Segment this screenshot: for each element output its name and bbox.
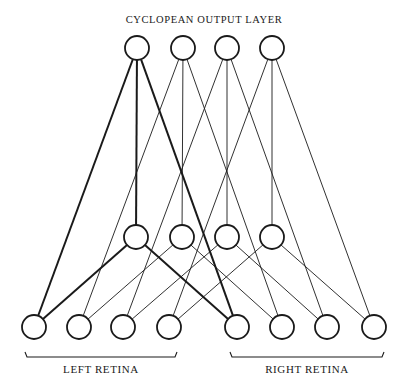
left-retina-node-2 [67, 315, 91, 339]
right-retina-node-1 [225, 315, 249, 339]
left-retina-node-4 [157, 315, 181, 339]
edge-cyclopean-output-2-to-right-retina-2 [187, 59, 278, 315]
edge-hidden-1-to-right-retina-1 [145, 245, 228, 319]
edge-hidden-3-to-right-retina-3 [236, 245, 318, 319]
edge-cyclopean-output-1-to-left-retina-1 [38, 59, 133, 315]
right-retina-node-3 [315, 315, 339, 339]
network-diagram: CYCLOPEAN OUTPUT LAYER LEFT RETINA RIGHT… [0, 0, 404, 389]
right-retina-bracket [230, 352, 384, 357]
hidden-node-1 [124, 225, 148, 249]
left-retina-node-1 [22, 315, 46, 339]
cyclopean-output-node-4 [260, 36, 284, 60]
cyclopean-output-node-2 [171, 36, 195, 60]
edge-cyclopean-output-2-to-left-retina-2 [83, 59, 179, 316]
hidden-node-2 [170, 225, 194, 249]
edge-cyclopean-output-3-to-right-retina-3 [231, 59, 323, 315]
output-layer-title: CYCLOPEAN OUTPUT LAYER [126, 14, 283, 25]
edge-hidden-1-to-left-retina-1 [43, 245, 127, 319]
edge-hidden-4-to-right-retina-4 [281, 245, 365, 319]
edge-hidden-2-to-right-retina-2 [191, 245, 273, 319]
connections [38, 59, 370, 319]
edge-cyclopean-output-1-to-hidden-1 [136, 60, 137, 225]
nodes [22, 36, 386, 339]
cyclopean-output-node-3 [215, 36, 239, 60]
cyclopean-output-node-1 [125, 36, 149, 60]
right-retina-label: RIGHT RETINA [265, 363, 349, 375]
left-retina-label: LEFT RETINA [63, 363, 139, 375]
edge-cyclopean-output-2-to-hidden-2 [182, 60, 183, 225]
edge-hidden-4-to-left-retina-4 [178, 245, 263, 319]
hidden-node-3 [215, 225, 239, 249]
right-retina-node-2 [270, 315, 294, 339]
edge-hidden-3-to-left-retina-3 [132, 245, 218, 319]
right-retina-node-4 [362, 315, 386, 339]
left-retina-bracket [25, 352, 177, 357]
edge-cyclopean-output-3-to-left-retina-3 [127, 59, 223, 316]
edge-cyclopean-output-4-to-right-retina-4 [276, 59, 370, 315]
left-retina-node-3 [111, 315, 135, 339]
hidden-node-4 [260, 225, 284, 249]
